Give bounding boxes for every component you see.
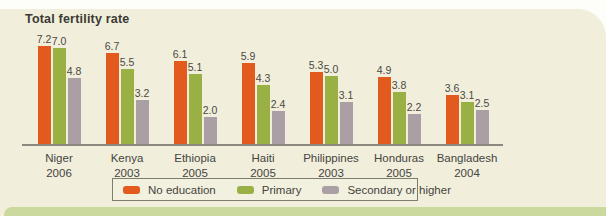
bar-column: 4.9 [378, 65, 391, 144]
bar-value-label: 4.9 [378, 65, 391, 76]
bar [189, 74, 202, 144]
bar [38, 46, 51, 144]
bar [53, 48, 66, 144]
bar-value-label: 3.6 [446, 83, 459, 94]
bar-value-label: 5.3 [310, 60, 323, 71]
bar-column: 4.3 [257, 73, 270, 144]
legend-item: Primary [237, 184, 302, 196]
bar [174, 61, 187, 144]
bar-value-label: 3.1 [461, 90, 474, 101]
chart-legend: No educationPrimarySecondary or higher [112, 178, 418, 201]
bar [310, 72, 323, 144]
x-axis-line [22, 144, 503, 146]
bar-column: 5.3 [310, 60, 323, 144]
bar [476, 110, 489, 144]
bar [242, 63, 255, 144]
bar-column: 3.8 [393, 80, 406, 144]
bar [461, 102, 474, 144]
page-section-divider [4, 207, 606, 216]
bar-column: 2.5 [476, 98, 489, 144]
bar-value-label: 2.2 [408, 102, 421, 113]
bar-value-label: 5.1 [189, 62, 202, 73]
bar-column: 7.2 [38, 34, 51, 144]
bar-value-label: 3.2 [136, 88, 149, 99]
bar-value-label: 2.4 [272, 99, 285, 110]
country-label: Bangladesh [422, 151, 512, 166]
legend-label: No education [148, 184, 216, 196]
bar [340, 102, 353, 144]
legend-label: Primary [262, 184, 302, 196]
legend-swatch-icon [123, 186, 140, 194]
figure: Total fertility rate 7.27.04.8Niger20066… [0, 0, 606, 216]
bar-column: 7.0 [53, 36, 66, 144]
bar-column: 4.8 [68, 66, 81, 144]
bar-value-label: 3.8 [393, 80, 406, 91]
bar-group: 6.75.53.2 [106, 41, 149, 144]
bar-value-label: 6.7 [106, 41, 119, 52]
legend-item: Secondary or higher [322, 184, 451, 196]
bar [68, 78, 81, 144]
bar-value-label: 2.5 [476, 98, 489, 109]
bar [257, 85, 270, 144]
bar-group: 6.15.12.0 [174, 49, 217, 144]
bar-value-label: 2.0 [204, 105, 217, 116]
legend-swatch-icon [322, 186, 339, 194]
bar-column: 3.1 [340, 90, 353, 144]
bar-column: 2.0 [204, 105, 217, 144]
bar [325, 76, 338, 144]
bar-group: 5.35.03.1 [310, 60, 353, 144]
bar-value-label: 4.3 [257, 73, 270, 84]
bar-value-label: 7.2 [38, 34, 51, 45]
bar-group: 5.94.32.4 [242, 51, 285, 144]
bar [446, 95, 459, 144]
bar-group: 3.63.12.5 [446, 83, 489, 144]
bar-value-label: 4.8 [68, 66, 81, 77]
bar-value-label: 5.9 [242, 51, 255, 62]
bar-column: 5.9 [242, 51, 255, 144]
bar [393, 92, 406, 144]
bar [408, 114, 421, 144]
legend-item: No education [123, 184, 216, 196]
bar-value-label: 5.0 [325, 64, 338, 75]
bar-column: 6.7 [106, 41, 119, 144]
x-axis-category-label: Bangladesh2004 [422, 151, 512, 181]
bar-column: 5.5 [121, 57, 134, 144]
bar [378, 77, 391, 144]
bar-column: 5.0 [325, 64, 338, 144]
bar-column: 3.2 [136, 88, 149, 144]
bar-column: 3.6 [446, 83, 459, 144]
legend-swatch-icon [237, 186, 254, 194]
bar [204, 117, 217, 144]
bar-value-label: 7.0 [53, 36, 66, 47]
bar-group: 7.27.04.8 [38, 34, 81, 144]
bar-value-label: 5.5 [121, 57, 134, 68]
bar-column: 5.1 [189, 62, 202, 144]
bar-column: 6.1 [174, 49, 187, 144]
bar [272, 111, 285, 144]
bar-value-label: 6.1 [174, 49, 187, 60]
bar-column: 2.4 [272, 99, 285, 144]
bar [106, 53, 119, 144]
year-label: 2004 [422, 166, 512, 181]
bar-column: 2.2 [408, 102, 421, 144]
bar-column: 3.1 [461, 90, 474, 144]
bar [136, 100, 149, 144]
bar-group: 4.93.82.2 [378, 65, 421, 144]
legend-label: Secondary or higher [347, 184, 451, 196]
bar-value-label: 3.1 [340, 90, 353, 101]
bar [121, 69, 134, 144]
